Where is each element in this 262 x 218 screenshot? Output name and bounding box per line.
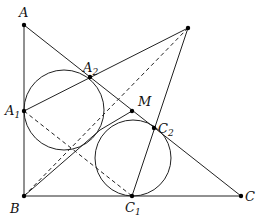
label-C2: C2 bbox=[158, 121, 174, 138]
dashed-B-P bbox=[24, 28, 188, 196]
geometry-figure: A B C A1 A2 M C2 C1 bbox=[0, 0, 262, 218]
point-C bbox=[239, 194, 243, 198]
segment-C1-P bbox=[132, 28, 188, 196]
segment-A1-P bbox=[24, 28, 188, 111]
point-C2 bbox=[152, 126, 156, 130]
label-A: A bbox=[18, 5, 28, 20]
label-C: C bbox=[245, 189, 255, 204]
point-A bbox=[22, 23, 26, 27]
point-B bbox=[22, 194, 26, 198]
diagram-canvas: A B C A1 A2 M C2 C1 bbox=[0, 0, 262, 218]
point-P bbox=[186, 26, 190, 30]
point-M bbox=[130, 109, 134, 113]
segment-B-tangent bbox=[24, 130, 100, 196]
point-A1 bbox=[22, 109, 26, 113]
label-A1: A1 bbox=[4, 103, 20, 120]
label-C1: C1 bbox=[125, 200, 141, 217]
label-A2: A2 bbox=[82, 60, 98, 77]
point-C1 bbox=[130, 194, 134, 198]
circle-a bbox=[24, 70, 104, 150]
label-B: B bbox=[9, 201, 20, 216]
label-M: M bbox=[137, 94, 152, 109]
